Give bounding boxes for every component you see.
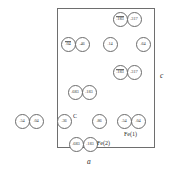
atom-circle: .183 <box>82 85 97 100</box>
atom-circle: .54 <box>117 114 132 129</box>
atom-circle: .04 <box>61 37 76 52</box>
atom-circle: .86 <box>92 114 107 129</box>
atom-circle: .54 <box>15 114 30 129</box>
atom-height-value: .317 <box>130 17 137 21</box>
atom-height-value: .14 <box>107 42 112 46</box>
site-label-fe2: Fe(2) <box>97 140 110 146</box>
atom-circle: .183 <box>113 65 128 80</box>
atom-height-value: .183 <box>116 69 123 75</box>
atom-circle: .04 <box>131 114 146 129</box>
atom-circle: .683 <box>68 85 83 100</box>
atom-circle: .317 <box>127 65 142 80</box>
c-axis-label: c <box>160 72 163 80</box>
atom-circle: .64 <box>136 37 151 52</box>
atom-height-value: .683 <box>71 90 78 94</box>
atom-height-value: .36 <box>61 119 66 123</box>
atom-circle: .317 <box>127 12 142 27</box>
atom-height-value: .04 <box>33 119 38 123</box>
atom-height-value: .183 <box>116 16 123 22</box>
atom-circle: .04 <box>29 114 44 129</box>
atom-circle: .46 <box>75 37 90 52</box>
atom-height-value: .317 <box>130 70 137 74</box>
atom-circle: .683 <box>69 137 84 152</box>
atom-height-value: .04 <box>65 41 70 47</box>
atom-height-value: .46 <box>79 42 84 46</box>
atom-height-value: .683 <box>72 142 79 146</box>
atom-height-value: .04 <box>135 119 140 123</box>
atom-height-value: .54 <box>19 119 24 123</box>
atom-height-value: .183 <box>85 90 92 94</box>
atom-circle: .14 <box>103 37 118 52</box>
a-axis-label: a <box>87 158 91 166</box>
atom-height-value: .183 <box>86 142 93 146</box>
atom-circle: .183 <box>113 12 128 27</box>
atom-circle: .36 <box>57 114 72 129</box>
site-label-c: C <box>73 113 77 119</box>
site-label-fe1: Fe(1) <box>124 131 137 137</box>
crystal-structure-figure: .183.317.04.46.14.64.183.317.683.183.54.… <box>0 0 175 174</box>
atom-height-value: .64 <box>140 42 145 46</box>
atom-height-value: .86 <box>96 119 101 123</box>
atom-height-value: .54 <box>121 119 126 123</box>
atom-circle: .183 <box>83 137 98 152</box>
